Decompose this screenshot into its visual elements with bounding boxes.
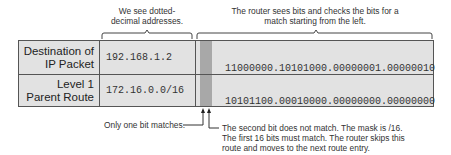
arrow-up-icon [201,108,205,113]
dotted-brace-icon [102,30,192,39]
one-bit-match-note: Only one bit matches. [104,120,185,130]
second-bit-mismatch-note: The second bit does not match. The mask … [222,123,405,153]
binary-brace-icon [197,30,432,39]
arrow-up-icon [207,108,211,113]
